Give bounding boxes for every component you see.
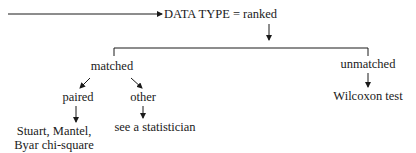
matched-node-label: matched xyxy=(91,59,133,73)
paired-node-label: paired xyxy=(62,90,93,104)
unmatched-node-label: unmatched xyxy=(341,57,396,71)
matched-to-paired-arrow xyxy=(80,78,90,88)
paired-result-line-1: Stuart, Mantel, xyxy=(14,124,93,138)
other-node-label: other xyxy=(130,90,156,104)
paired-result-line-2: Byar chi-square xyxy=(14,138,93,152)
root-node-label: DATA TYPE = ranked xyxy=(164,7,277,21)
matched-to-other-arrow xyxy=(131,78,142,88)
other-result: see a statistician xyxy=(114,120,195,134)
unmatched-result: Wilcoxon test xyxy=(333,89,402,103)
paired-result: Stuart, Mantel, Byar chi-square xyxy=(14,124,93,152)
